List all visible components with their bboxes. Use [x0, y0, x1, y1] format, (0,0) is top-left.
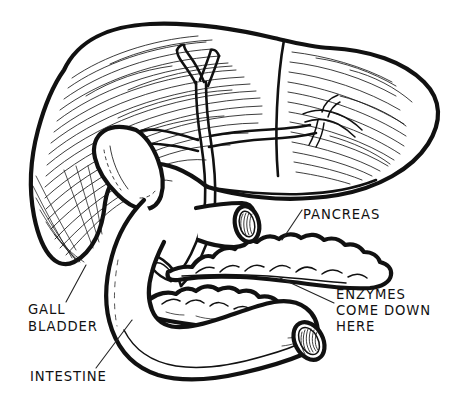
anatomy-illustration: PANCREAS ENZYMES COME DOWN HERE GALL BLA… [0, 0, 452, 405]
diagram-page: PANCREAS ENZYMES COME DOWN HERE GALL BLA… [0, 0, 452, 405]
label-intestine: INTESTINE [30, 369, 107, 384]
cut-tube-upper [196, 203, 262, 247]
label-gall-bladder-line1: GALL [28, 302, 66, 317]
label-enzymes-line1: ENZYMES [336, 287, 406, 302]
label-gall-bladder-line2: BLADDER [28, 319, 98, 334]
label-enzymes-line2: COME DOWN [336, 303, 431, 318]
label-enzymes-line3: HERE [336, 319, 375, 334]
label-pancreas: PANCREAS [303, 207, 380, 222]
leader-line-gall-bladder [66, 265, 86, 302]
